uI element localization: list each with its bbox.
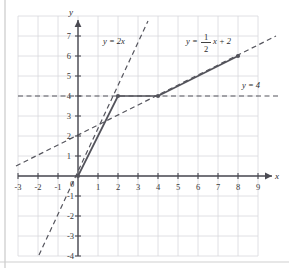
vertex-marker-2-4	[116, 94, 120, 98]
x-tick-label: -1	[54, 182, 61, 192]
half-eq-denominator: 2	[204, 44, 208, 54]
y-tick-label: 3	[67, 111, 71, 121]
y-tick-label: -1	[67, 191, 74, 201]
y-tick-label: -2	[67, 211, 74, 221]
x-tick-label: -3	[14, 182, 21, 192]
y-tick-label: 2	[67, 131, 71, 141]
y-tick-label: -3	[67, 231, 74, 241]
x-tick-label: 6	[196, 182, 200, 192]
graph-figure: -3 -2 -1 1 2 3 4 5 6 7 8 9 7 6 5 4 3 2 1…	[0, 0, 289, 268]
page-background	[0, 0, 289, 268]
label-y-equals-2x: y = 2x	[102, 36, 125, 46]
x-tick-label: 8	[236, 182, 240, 192]
origin-label: 0	[70, 179, 74, 189]
vertex-marker-origin	[76, 174, 80, 178]
x-tick-label: 2	[116, 182, 120, 192]
x-tick-label: 7	[216, 182, 220, 192]
y-tick-label: -4	[67, 251, 75, 261]
y-tick-label: 7	[67, 31, 71, 41]
y-axis-label: y	[68, 7, 73, 17]
half-eq-suffix: x + 2	[212, 36, 232, 46]
x-tick-label: 9	[256, 182, 260, 192]
label-y-equals-4: y = 4	[241, 80, 261, 90]
x-tick-label: 1	[96, 182, 100, 192]
x-tick-label: -2	[34, 182, 41, 192]
label-y-equals-2x-text: y = 2x	[102, 36, 125, 46]
y-tick-label: 5	[67, 71, 71, 81]
y-tick-label: 1	[67, 151, 71, 161]
half-eq-prefix: y =	[185, 36, 198, 46]
x-tick-label: 3	[136, 182, 140, 192]
y-tick-label: 6	[67, 51, 71, 61]
x-axis-label: x	[274, 171, 279, 181]
label-y-equals-4-text: y = 4	[241, 80, 261, 90]
vertex-marker-8-6	[236, 54, 240, 58]
vertex-marker-4-4	[156, 94, 160, 98]
x-tick-label: 5	[176, 182, 180, 192]
half-eq-numerator: 1	[204, 32, 208, 42]
